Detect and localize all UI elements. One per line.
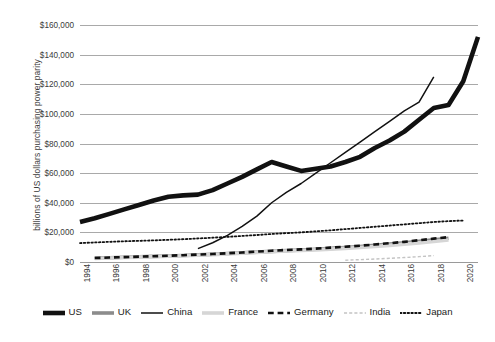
y-tick-label: $120,000 xyxy=(24,80,74,89)
legend-label: India xyxy=(370,306,391,317)
line-chart-figure: billions of US dollars purchasing power … xyxy=(0,0,495,342)
y-tick-label: $160,000 xyxy=(24,21,74,30)
x-tick-label: 2016 xyxy=(407,264,416,282)
series-line-japan xyxy=(80,221,463,244)
legend-swatch-icon-china xyxy=(141,305,163,317)
legend-swatch-icon-india xyxy=(344,305,366,317)
legend-label: China xyxy=(167,306,192,317)
legend-swatch-icon-germany xyxy=(268,305,290,317)
x-tick-label: 1996 xyxy=(112,264,121,282)
series-line-india xyxy=(345,256,433,261)
y-tick-label: $40,000 xyxy=(24,198,74,207)
y-axis-tick-labels: $0$20,000$40,000$60,000$80,000$100,000$1… xyxy=(24,0,74,342)
y-tick-label: $0 xyxy=(24,258,74,267)
y-tick-label: $60,000 xyxy=(24,169,74,178)
legend-item-germany[interactable]: Germany xyxy=(268,305,333,317)
x-tick-label: 2000 xyxy=(171,264,180,282)
legend-item-france[interactable]: France xyxy=(202,305,258,317)
legend-item-us[interactable]: US xyxy=(43,305,82,317)
legend-label: Germany xyxy=(294,306,333,317)
y-tick-label: $140,000 xyxy=(24,50,74,59)
legend-item-india[interactable]: India xyxy=(344,305,391,317)
plot-area xyxy=(80,25,478,262)
x-tick-label: 2002 xyxy=(201,264,210,282)
legend-swatch-icon-france xyxy=(202,305,224,317)
chart-legend: USUKChinaFranceGermanyIndiaJapan xyxy=(0,305,495,317)
legend-label: US xyxy=(69,306,82,317)
y-tick-label: $80,000 xyxy=(24,139,74,148)
legend-item-uk[interactable]: UK xyxy=(92,305,131,317)
x-tick-label: 2004 xyxy=(230,264,239,282)
x-tick-label: 2014 xyxy=(378,264,387,282)
x-tick-label: 2018 xyxy=(437,264,446,282)
legend-swatch-icon-uk xyxy=(92,305,114,317)
legend-item-china[interactable]: China xyxy=(141,305,192,317)
y-tick-label: $100,000 xyxy=(24,109,74,118)
x-tick-label: 2008 xyxy=(289,264,298,282)
x-tick-label: 1994 xyxy=(83,264,92,282)
gridline xyxy=(80,262,478,263)
x-tick-label: 1998 xyxy=(142,264,151,282)
y-tick-label: $20,000 xyxy=(24,228,74,237)
x-axis-tick-labels: 1994199619982000200220042006200820102012… xyxy=(80,264,478,304)
legend-label: France xyxy=(228,306,258,317)
series-lines xyxy=(80,25,478,262)
legend-label: Japan xyxy=(426,306,452,317)
series-line-us xyxy=(80,37,478,222)
legend-label: UK xyxy=(118,306,131,317)
x-tick-label: 2006 xyxy=(260,264,269,282)
legend-item-japan[interactable]: Japan xyxy=(400,305,452,317)
x-tick-label: 2020 xyxy=(466,264,475,282)
x-tick-label: 2010 xyxy=(319,264,328,282)
legend-swatch-icon-japan xyxy=(400,305,422,317)
legend-swatch-icon-us xyxy=(43,305,65,317)
x-tick-label: 2012 xyxy=(348,264,357,282)
series-line-china xyxy=(198,77,434,249)
